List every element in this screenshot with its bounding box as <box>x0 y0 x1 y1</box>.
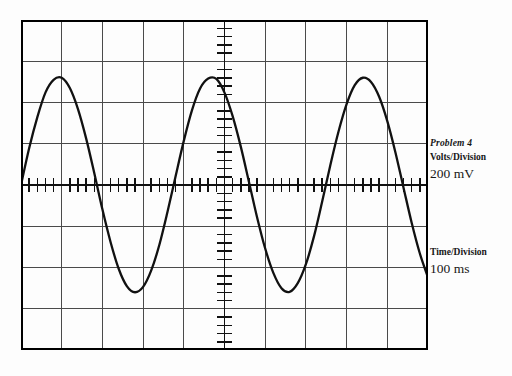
annotation-panel: Problem 4 Volts/Division 200 mV Time/Div… <box>430 20 512 350</box>
problem-caption-block: Problem 4 <box>430 137 512 149</box>
volts-per-division-value: 200 mV <box>430 165 512 182</box>
figure-root: Problem 4 Volts/Division 200 mV Time/Div… <box>0 0 512 376</box>
time-per-division-block: Time/Division 100 ms <box>430 246 512 277</box>
time-per-division-value: 100 ms <box>430 260 512 277</box>
scope-screen <box>21 20 428 350</box>
problem-caption: Problem 4 <box>430 137 512 149</box>
oscilloscope-graticule <box>21 20 428 350</box>
volts-per-division-block: Volts/Division 200 mV <box>430 151 512 182</box>
volts-per-division-label: Volts/Division <box>430 151 512 164</box>
time-per-division-label: Time/Division <box>430 246 512 259</box>
